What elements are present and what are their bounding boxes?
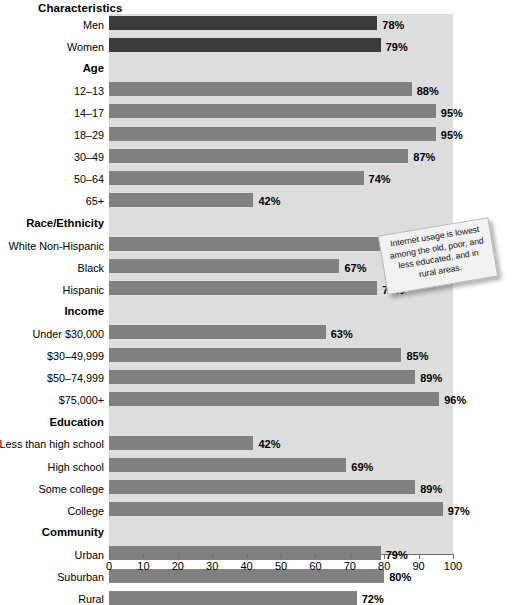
- row-label: $30–49,999: [47, 351, 104, 362]
- row-label: $75,000+: [59, 395, 104, 406]
- bar: [109, 392, 439, 406]
- bar-value-label: 88%: [417, 86, 439, 97]
- bar: [109, 480, 415, 494]
- bar-value-label: 80%: [389, 572, 411, 583]
- bar: [109, 16, 377, 30]
- bar: [109, 104, 436, 118]
- x-tick: [247, 554, 248, 559]
- x-tick-label: 70: [344, 560, 356, 572]
- x-tick-label: 40: [240, 560, 252, 572]
- group-heading-community: Community: [42, 527, 104, 538]
- bar: [109, 458, 346, 472]
- bar: [109, 591, 357, 605]
- bar: [109, 171, 364, 185]
- bar: [109, 127, 436, 141]
- bar: [109, 149, 408, 163]
- bar-value-label: 96%: [444, 395, 466, 406]
- group-heading-education: Education: [49, 417, 104, 428]
- row-label: Hispanic: [63, 285, 104, 296]
- row-label: $50–74,999: [47, 373, 104, 384]
- x-tick: [143, 554, 144, 559]
- x-tick: [315, 554, 316, 559]
- x-tick-label: 50: [275, 560, 287, 572]
- bar: [109, 38, 381, 52]
- row-label: 14–17: [74, 108, 104, 119]
- row-label: 50–64: [74, 174, 104, 185]
- bar-value-label: 78%: [382, 20, 404, 31]
- callout-note-text: Internet usage is lowest among the old, …: [378, 217, 498, 295]
- bar-value-label: 69%: [351, 462, 373, 473]
- row-label: White Non-Hispanic: [9, 241, 104, 252]
- bar-value-label: 67%: [344, 263, 366, 274]
- row-label: 18–29: [74, 130, 104, 141]
- x-tick-label: 90: [412, 560, 424, 572]
- group-heading-race-ethnicity: Race/Ethnicity: [26, 218, 104, 229]
- bar-value-label: 85%: [406, 351, 428, 362]
- x-tick: [350, 554, 351, 559]
- bar: [109, 259, 339, 273]
- x-tick: [178, 554, 179, 559]
- row-label: Men: [83, 20, 104, 31]
- row-label: High school: [48, 462, 104, 473]
- x-tick-label: 60: [309, 560, 321, 572]
- bar-value-label: 42%: [258, 439, 280, 450]
- row-label: Some college: [39, 484, 104, 495]
- row-label: Rural: [78, 594, 104, 605]
- bar: [109, 82, 412, 96]
- bar-value-label: 72%: [362, 594, 384, 605]
- x-tick: [384, 554, 385, 559]
- x-tick-label: 10: [137, 560, 149, 572]
- callout-note: Internet usage is lowest among the old, …: [382, 226, 510, 302]
- bar: [109, 237, 381, 251]
- row-label: Under $30,000: [33, 329, 104, 340]
- row-label: 30–49: [74, 152, 104, 163]
- bar-value-label: 42%: [258, 196, 280, 207]
- group-heading-income: Income: [64, 306, 104, 317]
- x-tick: [281, 554, 282, 559]
- row-label: Urban: [75, 550, 104, 561]
- x-tick-label: 20: [172, 560, 184, 572]
- bar: [109, 193, 253, 207]
- x-tick-label: 80: [378, 560, 390, 572]
- x-tick: [212, 554, 213, 559]
- bar: [109, 325, 326, 339]
- row-label: College: [67, 506, 104, 517]
- bar-value-label: 95%: [441, 130, 463, 141]
- x-tick-label: 30: [206, 560, 218, 572]
- bar-value-label: 79%: [386, 42, 408, 53]
- bar: [109, 502, 443, 516]
- bar-value-label: 97%: [448, 506, 470, 517]
- bar-value-label: 89%: [420, 484, 442, 495]
- row-label: 12–13: [74, 86, 104, 97]
- row-label: Less than high school: [0, 439, 104, 450]
- bar: [109, 348, 401, 362]
- row-label: Women: [67, 42, 104, 53]
- bar-value-label: 95%: [441, 108, 463, 119]
- row-label: Suburban: [57, 572, 104, 583]
- x-tick-label: 0: [106, 560, 112, 572]
- x-tick: [453, 554, 454, 559]
- bar-value-label: 87%: [413, 152, 435, 163]
- x-tick: [419, 554, 420, 559]
- page-title: Characteristics: [38, 2, 123, 14]
- row-label: Black: [78, 263, 104, 274]
- x-tick-label: 100: [444, 560, 462, 572]
- bar-value-label: 89%: [420, 373, 442, 384]
- row-label: 65+: [86, 196, 104, 207]
- bar: [109, 546, 381, 560]
- x-tick: [109, 554, 110, 559]
- group-heading-age: Age: [83, 63, 104, 74]
- bar: [109, 281, 377, 295]
- bar-value-label: 74%: [369, 174, 391, 185]
- bar: [109, 436, 253, 450]
- bar-value-label: 63%: [331, 329, 353, 340]
- bar: [109, 370, 415, 384]
